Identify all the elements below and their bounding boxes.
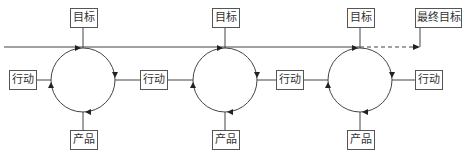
- cycle-2: [167, 27, 276, 130]
- arrow-top: [352, 45, 358, 51]
- action-box-3: 行动: [276, 70, 304, 90]
- product-box-2: 产品: [212, 130, 240, 150]
- arrow-bottom: [227, 109, 233, 115]
- cycle-circle: [193, 48, 257, 112]
- arrow-bottom: [85, 109, 91, 115]
- product-box-3: 产品: [347, 130, 375, 150]
- action-box-1: 行动: [9, 70, 37, 90]
- final-goal-box: 最终目标: [415, 8, 462, 28]
- arrow-left: [190, 82, 196, 88]
- action-box-2: 行动: [140, 70, 168, 90]
- arrow-bottom: [362, 109, 368, 115]
- arrow-right: [254, 72, 260, 78]
- product-box-1: 产品: [70, 130, 98, 150]
- arrow-right: [112, 72, 118, 78]
- cycle-1: [36, 27, 140, 130]
- arrow-left: [325, 82, 331, 88]
- arrow-top: [75, 45, 81, 51]
- cycle-3: [303, 27, 415, 130]
- goal-box-2: 目标: [212, 8, 240, 28]
- cycle-circle: [328, 48, 392, 112]
- goal-box-3: 目标: [347, 8, 375, 28]
- arrow-right: [389, 72, 395, 78]
- final-goal-arrowhead: [413, 44, 420, 50]
- action-box-4: 行动: [415, 70, 443, 90]
- arrow-left: [48, 82, 54, 88]
- arrow-top: [217, 45, 223, 51]
- goal-box-1: 目标: [70, 8, 98, 28]
- cycle-circle: [51, 48, 115, 112]
